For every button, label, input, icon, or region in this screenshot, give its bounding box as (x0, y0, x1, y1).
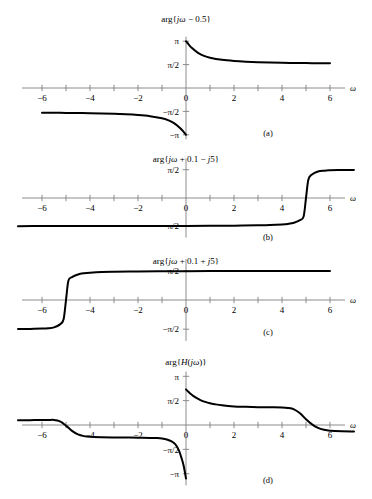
y-tick-label: −π (169, 130, 179, 140)
x-tick-label: 4 (280, 430, 285, 440)
x-tick-label: −6 (37, 93, 47, 103)
x-axis-label-omega: ω (350, 420, 356, 430)
x-tick-label: 2 (232, 305, 237, 315)
x-tick-label: −4 (85, 93, 95, 103)
x-tick-label: 2 (232, 203, 237, 213)
x-tick-label: 4 (280, 93, 285, 103)
x-tick-label: −4 (85, 305, 95, 315)
panel-b: arg{jω + 0.1 − j5}−6−4−20246π/2−π/2ω(b) (18, 154, 356, 242)
y-tick-label: −π/2 (162, 107, 179, 117)
panel-label-d: (d) (263, 475, 273, 485)
x-tick-label: −6 (37, 430, 47, 440)
x-tick-label: 2 (232, 93, 237, 103)
panel-title-a: arg{jω − 0.5} (161, 14, 211, 24)
x-tick-label: −4 (85, 430, 95, 440)
x-tick-label: −2 (133, 203, 143, 213)
x-tick-label: −2 (133, 93, 143, 103)
x-tick-label: −2 (133, 305, 143, 315)
x-axis-label-omega: ω (350, 83, 356, 93)
y-tick-label: −π (169, 469, 179, 479)
panel-label-b: (b) (263, 232, 273, 242)
y-tick-label: π/2 (167, 396, 179, 406)
x-tick-label: 0 (184, 203, 189, 213)
y-tick-label: π (174, 372, 179, 382)
x-tick-label: 6 (328, 93, 333, 103)
x-tick-label: 6 (328, 203, 333, 213)
panel-label-a: (a) (263, 128, 273, 138)
panel-d: arg{H(jω)}−6−4−20246ππ/2−π/2−πω(d) (18, 357, 356, 485)
x-tick-label: 4 (280, 305, 285, 315)
curve-a-positive-branch (186, 41, 330, 63)
figure-phase-plots: arg{jω − 0.5}−6−4−20246ππ/2−π/2−πω(a)arg… (0, 0, 372, 499)
x-tick-label: 0 (184, 305, 189, 315)
x-tick-label: −6 (37, 305, 47, 315)
x-tick-label: 0 (184, 430, 189, 440)
panel-a: arg{jω − 0.5}−6−4−20246ππ/2−π/2−πω(a) (22, 14, 356, 140)
panel-c: arg{jω + 0.1 + j5}−6−4−20246π/2−π/2ω(c) (18, 256, 356, 341)
x-tick-label: 0 (184, 93, 189, 103)
y-tick-label: π (174, 36, 179, 46)
x-tick-label: −6 (37, 203, 47, 213)
curve-d-left-branch (18, 420, 186, 479)
x-axis-label-omega: ω (350, 193, 356, 203)
x-tick-label: 2 (232, 430, 237, 440)
x-tick-label: 4 (280, 203, 285, 213)
phase-plot-svg: arg{jω − 0.5}−6−4−20246ππ/2−π/2−πω(a)arg… (0, 0, 372, 499)
y-tick-label: −π/2 (162, 324, 179, 334)
x-tick-label: 6 (328, 305, 333, 315)
x-axis-label-omega: ω (350, 295, 356, 305)
y-tick-label: π/2 (167, 165, 179, 175)
panel-label-c: (c) (263, 327, 273, 337)
y-tick-label: π/2 (167, 60, 179, 70)
x-tick-label: −4 (85, 203, 95, 213)
panel-title-d: arg{H(jω)} (165, 357, 206, 367)
